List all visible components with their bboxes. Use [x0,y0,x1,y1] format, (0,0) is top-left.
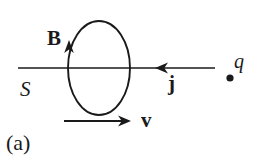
physics-figure: B j v S q (a) [0,0,263,167]
point-charge-dot [226,74,233,81]
figure-caption: (a) [6,132,30,154]
label-charge: q [234,51,244,71]
figure-canvas [0,0,263,167]
label-current-density: j [168,73,175,94]
label-surface: S [20,79,31,100]
label-magnetic-field: B [47,28,61,49]
label-velocity: v [141,110,152,131]
